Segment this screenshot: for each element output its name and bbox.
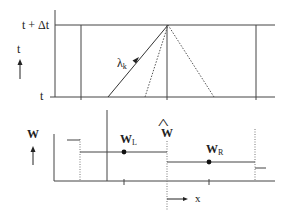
top-panel [50, 10, 275, 100]
wl-symbol: W [120, 132, 132, 146]
characteristic-dotted-right [168, 25, 214, 97]
wl-point [122, 150, 127, 155]
characteristic-dotted-left [145, 25, 168, 97]
t-lower-label: t [40, 90, 43, 102]
w-axis-label: W [27, 128, 39, 140]
lambda-k-label: λk [117, 57, 127, 71]
w-axis-arrow-head-icon [31, 146, 36, 152]
t-plus-dt-label: t + Δt [22, 19, 49, 31]
lambda-subscript: k [123, 62, 127, 71]
wr-point [207, 160, 212, 165]
wl-subscript: L [132, 138, 137, 147]
wr-label: WR [206, 143, 223, 157]
w-hat-label: W [161, 127, 173, 139]
wr-subscript: R [218, 148, 223, 157]
x-axis-label: x [195, 193, 201, 204]
t-axis-arrow-head-icon [18, 59, 23, 65]
wr-symbol: W [206, 142, 218, 156]
x-arrow-head-icon [183, 197, 188, 201]
t-axis-label: t [17, 43, 20, 55]
wl-label: WL [120, 133, 137, 147]
